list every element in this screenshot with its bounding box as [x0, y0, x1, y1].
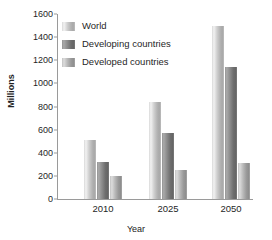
- developed-swatch: [62, 58, 75, 67]
- bar: [84, 140, 96, 199]
- bar: [97, 162, 109, 199]
- y-tick-mark: [54, 60, 57, 61]
- y-tick-mark: [54, 152, 57, 153]
- y-tick-mark: [54, 83, 57, 84]
- bar: [175, 170, 187, 199]
- chart-legend: WorldDeveloping countriesDeveloped count…: [62, 18, 171, 72]
- y-tick-mark: [54, 14, 57, 15]
- y-tick-label: 0: [23, 195, 53, 204]
- y-tick-label: 1200: [23, 56, 53, 65]
- bar-group: [212, 14, 250, 199]
- legend-label: Developing countries: [82, 39, 171, 49]
- bar-chart-figure: Millions 16001400120010008006004002000 2…: [0, 0, 272, 240]
- legend-item: Developing countries: [62, 36, 171, 52]
- y-tick-label: 800: [23, 102, 53, 111]
- bar: [110, 176, 122, 199]
- world-swatch: [62, 22, 75, 31]
- legend-item: World: [62, 18, 171, 34]
- developing-swatch: [62, 40, 75, 49]
- legend-item: Developed countries: [62, 54, 171, 70]
- y-axis-line: [57, 14, 58, 200]
- legend-label: Developed countries: [82, 57, 169, 67]
- y-tick-label: 600: [23, 125, 53, 134]
- x-tick-label: 2025: [138, 204, 198, 214]
- bar: [238, 163, 250, 199]
- bar: [212, 26, 224, 199]
- y-tick-mark: [54, 199, 57, 200]
- x-axis-line: [57, 199, 253, 200]
- y-tick-label: 1400: [23, 33, 53, 42]
- legend-label: World: [82, 21, 107, 31]
- y-tick-mark: [54, 175, 57, 176]
- bar: [149, 102, 161, 199]
- y-tick-label: 1000: [23, 79, 53, 88]
- y-tick-label: 200: [23, 171, 53, 180]
- x-axis-title: Year: [0, 224, 272, 234]
- y-tick-mark: [54, 37, 57, 38]
- bar: [225, 67, 237, 199]
- y-tick-mark: [54, 106, 57, 107]
- x-tick-label: 2050: [201, 204, 261, 214]
- bar: [162, 133, 174, 199]
- y-axis-title: Millions: [6, 56, 16, 126]
- y-tick-mark: [54, 129, 57, 130]
- y-tick-label: 400: [23, 148, 53, 157]
- y-tick-label: 1600: [23, 10, 53, 19]
- x-tick-label: 2010: [73, 204, 133, 214]
